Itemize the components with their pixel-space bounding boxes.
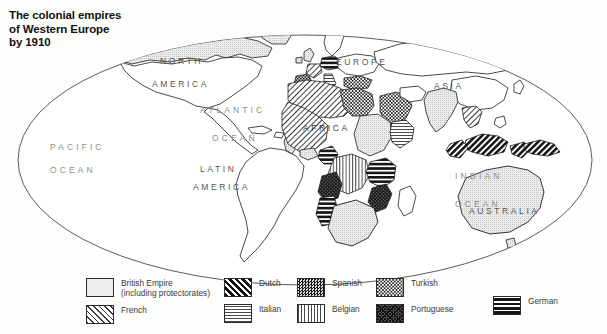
legend-item-portuguese: Portuguese — [376, 304, 453, 323]
label-north: NORTH — [160, 56, 203, 66]
legend-column-2: Dutch Italian — [224, 278, 281, 323]
swatch-french — [86, 305, 114, 324]
legend-label-french: French — [121, 305, 147, 316]
label-atlantic-ocean: OCEAN — [212, 133, 258, 143]
legend-column-1: British Empire (including protectorates)… — [86, 278, 210, 324]
globe-outline — [18, 35, 592, 285]
swatch-belgian — [297, 304, 325, 323]
land-russia-siberia — [374, 40, 520, 76]
label-latin-america: AMERICA — [193, 182, 250, 192]
legend-column-5: German — [493, 296, 558, 315]
label-pacific: PACIFIC — [50, 142, 105, 152]
legend-label-british-empire: British Empire (including protectorates) — [121, 278, 210, 298]
label-asia: ASIA — [434, 81, 464, 91]
label-indian-ocean: OCEAN — [455, 199, 501, 209]
label-indian: INDIAN — [455, 171, 502, 181]
label-atlantic: ATLANTIC — [200, 105, 265, 115]
legend-label-italian: Italian — [259, 304, 281, 315]
legend-label-turkish: Turkish — [411, 278, 438, 289]
swatch-spanish — [297, 278, 325, 297]
legend-label-dutch: Dutch — [259, 278, 281, 289]
legend-label-spanish: Spanish — [332, 278, 362, 289]
land-new-zealand-british — [552, 222, 574, 256]
swatch-portuguese — [376, 304, 404, 323]
legend-column-4: Turkish Portuguese — [376, 278, 453, 323]
legend-item-dutch: Dutch — [224, 278, 281, 297]
label-europe: EUROPE — [336, 57, 388, 67]
label-africa: AFRICA — [303, 123, 350, 133]
swatch-italian — [224, 304, 252, 323]
legend-column-3: Spanish Belgian — [297, 278, 362, 323]
label-latin: LATIN — [200, 164, 236, 174]
legend-item-british-empire: British Empire (including protectorates) — [86, 278, 210, 298]
legend-label-german: German — [528, 296, 558, 307]
swatch-german — [493, 296, 521, 315]
legend-item-german: German — [493, 296, 558, 315]
legend-item-french: French — [86, 305, 210, 324]
map-legend: British Empire (including protectorates)… — [0, 272, 607, 334]
legend-item-spanish: Spanish — [297, 278, 362, 297]
colonial-empires-map-figure: The colonial empires of Western Europe b… — [0, 0, 607, 334]
land-tasmania — [506, 238, 516, 248]
label-pacific-ocean: OCEAN — [50, 165, 96, 175]
swatch-british-empire — [86, 278, 114, 297]
label-north-america: AMERICA — [152, 79, 209, 89]
legend-label-portuguese: Portuguese — [411, 304, 453, 315]
legend-label-belgian: Belgian — [332, 304, 360, 315]
legend-item-belgian: Belgian — [297, 304, 362, 323]
swatch-dutch — [224, 278, 252, 297]
legend-item-italian: Italian — [224, 304, 281, 323]
legend-item-turkish: Turkish — [376, 278, 453, 297]
swatch-turkish — [376, 278, 404, 297]
